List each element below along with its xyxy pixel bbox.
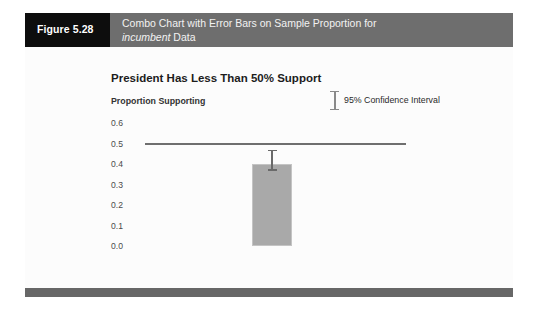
combo-chart: President Has Less Than 50% Support Prop… <box>111 47 481 288</box>
legend-item-label: 95% Confidence Interval <box>344 95 440 105</box>
y-axis-tick-label: 0.2 <box>111 200 137 210</box>
figure-number-label: Figure 5.28 <box>37 23 94 35</box>
error-bar-icon <box>330 91 339 110</box>
figure-caption-line1: Combo Chart with Error Bars on Sample Pr… <box>122 17 376 29</box>
figure-container: Figure 5.28 Combo Chart with Error Bars … <box>25 13 513 297</box>
plot-area: 0.60.50.40.30.20.10.0 <box>111 116 481 288</box>
figure-caption-emphasis: incumbent <box>122 31 170 43</box>
y-axis-tick-label: 0.5 <box>111 139 137 149</box>
y-axis-tick-label: 0.3 <box>111 180 137 190</box>
figure-caption-line2: incumbent Data <box>122 31 502 45</box>
y-axis-tick-label: 0.1 <box>111 221 137 231</box>
y-axis-tick-label: 0.4 <box>111 159 137 169</box>
figure-caption: Combo Chart with Error Bars on Sample Pr… <box>122 17 502 44</box>
y-axis-title: Proportion Supporting <box>111 96 205 106</box>
figure-header-band: Figure 5.28 Combo Chart with Error Bars … <box>25 13 513 47</box>
bar-incumbent <box>252 164 292 246</box>
chart-title: President Has Less Than 50% Support <box>111 72 321 84</box>
figure-number-box: Figure 5.28 <box>25 13 110 47</box>
figure-footer-bar <box>25 288 513 297</box>
figure-body: President Has Less Than 50% Support Prop… <box>25 47 513 288</box>
reference-line-50-percent <box>145 143 406 145</box>
y-axis-tick-label: 0.6 <box>111 118 137 128</box>
figure-caption-line2-rest: Data <box>170 31 195 43</box>
y-axis-tick-label: 0.0 <box>111 241 137 251</box>
